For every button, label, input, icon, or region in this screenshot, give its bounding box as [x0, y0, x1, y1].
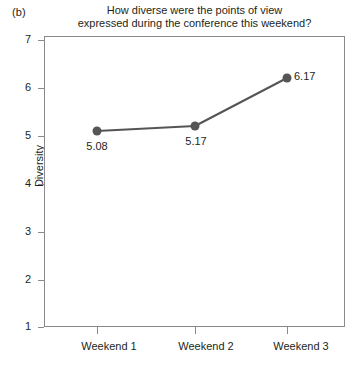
data-point-weekend-1 — [93, 127, 102, 136]
series-line-chart — [0, 0, 357, 367]
data-label-weekend-2: 5.17 — [156, 135, 236, 147]
data-point-weekend-2 — [191, 122, 200, 131]
data-point-weekend-3 — [283, 74, 292, 83]
data-label-weekend-1: 5.08 — [57, 140, 137, 152]
data-label-weekend-3: 6.17 — [294, 70, 315, 82]
chart-figure: (b) How diverse were the points of view … — [0, 0, 357, 367]
